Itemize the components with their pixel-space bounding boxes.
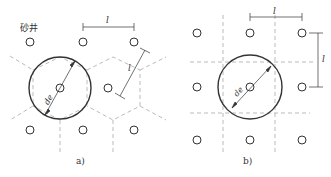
figure-b	[190, 13, 323, 155]
spacing-dimension-b	[250, 13, 302, 21]
spacing-label-a: l	[106, 16, 109, 25]
sand-well	[26, 38, 34, 46]
caption-a: a)	[76, 157, 85, 166]
spacing-label-b: l	[273, 7, 276, 16]
sand-well	[79, 126, 87, 134]
sand-well	[130, 126, 138, 134]
diameter-dimension-a	[45, 61, 75, 115]
sand-well	[193, 136, 201, 144]
sand-well	[104, 84, 112, 92]
sand-wells-a	[26, 38, 138, 134]
sand-well	[130, 38, 138, 46]
sand-well	[79, 38, 87, 46]
vertical-spacing-label-b: l	[322, 55, 325, 64]
caption-b: b)	[243, 157, 252, 166]
vertical-dimension-b	[309, 33, 323, 87]
diagonal-spacing-label-a: l	[128, 64, 131, 73]
sand-well-layout-diagram	[0, 0, 331, 177]
sand-well	[193, 29, 201, 37]
diagonal-dimension-a	[115, 48, 150, 99]
sand-well-label: 砂井	[20, 24, 38, 33]
sand-well	[298, 83, 306, 91]
center-sand-well-b	[246, 83, 254, 91]
sand-well	[298, 29, 306, 37]
sand-well	[246, 29, 254, 37]
sand-well	[246, 136, 254, 144]
figure-a	[10, 23, 166, 152]
sand-well	[26, 126, 34, 134]
sand-well	[298, 136, 306, 144]
sand-well	[193, 83, 201, 91]
